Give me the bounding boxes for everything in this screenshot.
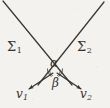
sigma-1-label: Σ1 [7,40,22,55]
vector-v1-subscript: 1 [23,93,28,102]
angle-alpha-label: α [50,57,58,69]
vector-v2-subscript: 2 [87,93,92,102]
angle-beta-label: β [52,77,59,89]
sigma-1-subscript: 1 [17,46,22,55]
vector-v1-arrow [29,73,53,89]
vector-v2-symbol: v [80,87,87,101]
vector-v1-symbol: v [16,87,23,101]
vector-v1-label: v1 [16,88,28,102]
sigma-2-subscript: 2 [87,46,92,55]
vector-v2-arrow [57,73,81,89]
vector-v2-label: v2 [80,88,92,102]
figure-canvas: Σ1 Σ2 α β v1 v2 [0,0,110,108]
sigma-2-symbol: Σ [77,39,86,54]
sigma-1-symbol: Σ [7,39,16,54]
sigma-2-label: Σ2 [77,40,92,55]
